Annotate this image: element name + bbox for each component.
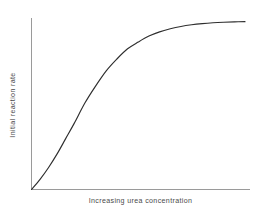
saturation-curve [32, 22, 246, 190]
x-axis-label: Increasing urea concentration [31, 197, 250, 205]
chart-plot-area [0, 0, 257, 214]
y-axis-label-container: Initial reaction rate [0, 40, 26, 170]
figure-container: Initial reaction rate Increasing urea co… [0, 0, 257, 214]
y-axis-label: Initial reaction rate [9, 72, 17, 137]
